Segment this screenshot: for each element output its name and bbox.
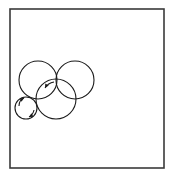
circle-small [15,97,37,119]
arrow-middle-top-icon [43,82,54,89]
diagram-canvas [0,0,171,175]
diagram-frame [10,9,164,168]
circles-group [15,61,94,119]
